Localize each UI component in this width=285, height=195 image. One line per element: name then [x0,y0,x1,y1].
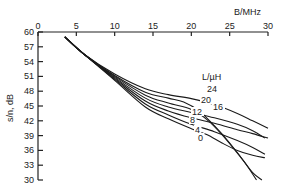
x-axis-title: B/MHz [234,7,262,17]
curve-L-16 [65,37,262,180]
chart: 0510152025306057545148454239363330 24201… [0,0,285,195]
x-tick-label: 30 [263,21,273,31]
y-tick-label: 57 [24,42,34,52]
curve-label-8: 8 [190,115,195,125]
y-tick-label: 30 [24,175,34,185]
curve-label-24: 24 [207,84,217,94]
curve-label-16: 16 [213,102,223,112]
x-tick-label: 25 [225,21,235,31]
x-tick-label: 10 [110,21,120,31]
y-tick-label: 45 [24,101,34,111]
curve-group [65,37,268,180]
y-tick-label: 60 [24,27,34,37]
curve-L-12 [65,37,265,138]
y-axis-title: s/n, dB [5,94,15,122]
y-tick-label: 42 [24,116,34,126]
x-tick-label: 0 [35,21,40,31]
curve-label-20: 20 [201,95,211,105]
y-tick-label: 51 [24,71,34,81]
y-tick-label: 54 [24,57,34,67]
curve-L-4 [65,37,265,154]
curve-label-0: 0 [198,133,203,143]
x-tick-label: 20 [186,21,196,31]
y-tick-label: 36 [24,145,34,155]
y-tick-label: 33 [24,160,34,170]
curve-L-8 [65,37,268,138]
legend-title: L/µH [202,72,221,82]
y-tick-label: 39 [24,131,34,141]
y-tick-label: 48 [24,86,34,96]
x-tick-label: 5 [74,21,79,31]
x-tick-label: 15 [148,21,158,31]
